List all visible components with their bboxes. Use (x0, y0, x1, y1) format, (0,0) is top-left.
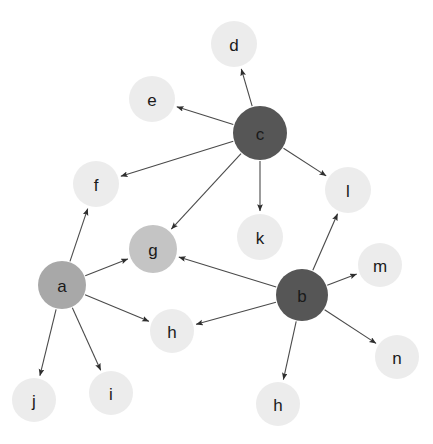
edge-a-to-j (40, 309, 56, 375)
graph-node-c[interactable]: c (233, 106, 287, 160)
graph-node-a[interactable]: a (38, 261, 86, 309)
edge-c-to-d (241, 69, 252, 106)
edge-b-to-g (179, 257, 276, 287)
node-circle-f[interactable] (73, 161, 119, 207)
graph-node-b[interactable]: b (276, 269, 328, 321)
node-circle-c[interactable] (233, 106, 287, 160)
node-circle-h1[interactable] (150, 309, 194, 353)
edge-c-to-l (284, 148, 327, 176)
node-circle-h2[interactable] (256, 382, 300, 426)
edge-b-to-l (313, 214, 338, 270)
graph-node-n[interactable]: n (375, 335, 419, 379)
edge-a-to-g (85, 259, 128, 276)
node-circle-j[interactable] (12, 378, 56, 422)
graph-node-d[interactable]: d (211, 21, 257, 67)
graph-node-l[interactable]: l (325, 167, 371, 213)
edges-layer (40, 69, 376, 380)
node-circle-g[interactable] (129, 225, 177, 273)
graph-node-e[interactable]: e (129, 76, 175, 122)
graph-node-h1[interactable]: h (150, 309, 194, 353)
graph-node-j[interactable]: j (12, 378, 56, 422)
node-circle-n[interactable] (375, 335, 419, 379)
edge-c-to-g (171, 154, 241, 230)
graph-node-h2[interactable]: h (256, 382, 300, 426)
graph-svg: decflkgmabhnijh (0, 0, 433, 444)
graph-node-g[interactable]: g (129, 225, 177, 273)
node-circle-e[interactable] (129, 76, 175, 122)
node-circle-d[interactable] (211, 21, 257, 67)
edge-a-to-f (70, 209, 88, 262)
edge-c-to-f (121, 141, 233, 176)
graph-canvas: decflkgmabhnijh (0, 0, 433, 444)
node-circle-m[interactable] (358, 243, 402, 287)
edge-b-to-h1 (196, 302, 276, 324)
edge-b-to-h2 (283, 321, 296, 379)
node-circle-i[interactable] (89, 371, 133, 415)
edge-a-to-i (72, 308, 100, 370)
edge-c-to-e (177, 107, 233, 125)
graph-node-k[interactable]: k (237, 214, 283, 260)
edge-a-to-h1 (85, 295, 149, 322)
edge-b-to-m (327, 274, 356, 285)
nodes-layer: decflkgmabhnijh (12, 21, 419, 426)
edge-b-to-n (325, 310, 376, 344)
node-circle-k[interactable] (237, 214, 283, 260)
graph-node-f[interactable]: f (73, 161, 119, 207)
graph-node-m[interactable]: m (358, 243, 402, 287)
node-circle-l[interactable] (325, 167, 371, 213)
node-circle-b[interactable] (276, 269, 328, 321)
graph-node-i[interactable]: i (89, 371, 133, 415)
node-circle-a[interactable] (38, 261, 86, 309)
